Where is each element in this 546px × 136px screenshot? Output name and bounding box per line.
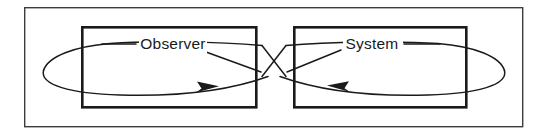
diagram-svg: Observer System xyxy=(0,0,546,136)
system-label: System xyxy=(346,35,399,52)
diagram-canvas: Observer System xyxy=(0,0,546,136)
outer-frame xyxy=(25,8,523,127)
observer-label: Observer xyxy=(140,35,205,52)
